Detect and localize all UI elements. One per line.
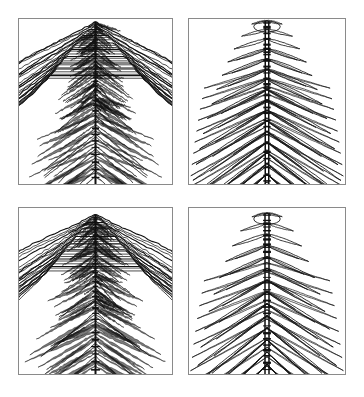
spine-rung (263, 120, 270, 122)
spine-bead (93, 42, 98, 44)
spine-bead (93, 221, 97, 223)
spine-bead (93, 263, 99, 264)
spine-rung (263, 167, 270, 168)
spine-bead (93, 76, 98, 78)
spine-bead (92, 147, 100, 148)
spine-bead (93, 241, 97, 243)
spine-rung (263, 338, 271, 339)
spine-bead (94, 51, 98, 52)
spine-bead (93, 238, 98, 240)
spine-rung (263, 51, 270, 53)
spine-bead (91, 346, 100, 347)
spine-rung (263, 48, 270, 50)
spine-bead (91, 134, 99, 135)
spine-bead (92, 301, 98, 302)
spine-rung (263, 180, 270, 182)
spine-rung (263, 214, 271, 215)
spine-rung (263, 243, 271, 245)
spine-bead (94, 27, 97, 28)
spine-rung (263, 223, 271, 225)
spine-rung (263, 26, 270, 28)
contour-plot-2 (189, 19, 345, 184)
spine-bead (92, 291, 98, 293)
spine-bead (92, 169, 100, 170)
spine-bead (93, 54, 98, 55)
spine-rung (263, 28, 270, 29)
spine-bead (92, 99, 98, 101)
spine-rung (263, 33, 270, 34)
spine-bead (94, 29, 97, 31)
spine-bead (93, 272, 98, 274)
central-spine (95, 22, 97, 184)
spine-bead (92, 161, 99, 163)
spine-rung (263, 289, 271, 290)
spine-rung (263, 264, 271, 265)
spine-bead (93, 235, 98, 236)
spine-bead (92, 307, 99, 309)
spine-bead (93, 105, 99, 107)
spine-bead (93, 217, 97, 219)
spine-bead (93, 90, 98, 92)
spine-bead (93, 94, 98, 95)
spine-bead (93, 252, 97, 254)
spine-rung (263, 72, 270, 73)
spine-rung (263, 257, 271, 259)
spine-rung (263, 22, 270, 24)
spine-rung (263, 175, 270, 176)
spine-bead (92, 116, 98, 117)
spine-bead (93, 72, 99, 74)
spine-bead (93, 229, 98, 230)
spine-bead (92, 140, 99, 142)
top-right-panel: (b) (188, 18, 346, 185)
spine-rung (263, 325, 271, 326)
spine-rung (263, 277, 271, 278)
spine-rung (263, 143, 270, 145)
spine-bead (91, 332, 99, 334)
spine-rung (263, 220, 271, 221)
spine-rung (263, 238, 271, 240)
spine-rung (263, 355, 271, 356)
spine-bead (93, 61, 97, 63)
spine-bead (92, 339, 99, 341)
spine-bead (92, 325, 100, 326)
spine-rung (263, 226, 271, 227)
spine-bead (92, 313, 99, 314)
spine-rung (263, 332, 271, 334)
spine-bead (93, 121, 99, 122)
spine-rung (263, 38, 270, 40)
spine-rung (263, 251, 271, 253)
spine-bead (92, 296, 99, 298)
spine-rung (263, 362, 271, 364)
spine-bead (92, 281, 99, 283)
spine-rung (263, 369, 271, 370)
spine-rung (263, 126, 270, 127)
spine-bead (93, 68, 97, 69)
spine-bead (91, 154, 100, 155)
spine-rung (263, 270, 271, 272)
spine-rung (263, 134, 270, 135)
spine-bead (93, 57, 97, 58)
spine-rung (263, 158, 270, 159)
spine-rung (263, 95, 270, 97)
spine-rung (263, 59, 270, 61)
bottom-left-panel: (c) (18, 207, 173, 375)
spine-bead (94, 232, 97, 233)
spine-rung (263, 107, 270, 109)
spine-bead (94, 224, 98, 226)
spine-rung (263, 44, 270, 46)
contour-plot-3 (19, 208, 172, 374)
figure-root: (a)(b)(c)(d) (0, 0, 364, 397)
spine-bead (94, 31, 98, 32)
spine-bead (92, 127, 99, 129)
spine-bead (93, 81, 98, 82)
spine-bead (93, 245, 98, 246)
spine-bead (93, 85, 98, 87)
spine-bead (93, 24, 98, 25)
spine-bead (91, 369, 100, 371)
spine-rung (263, 282, 271, 283)
spine-bead (94, 45, 98, 47)
contour-plot-1 (19, 19, 172, 184)
spine-rung (263, 300, 271, 302)
spine-rung (263, 54, 270, 55)
spine-bead (94, 36, 97, 37)
